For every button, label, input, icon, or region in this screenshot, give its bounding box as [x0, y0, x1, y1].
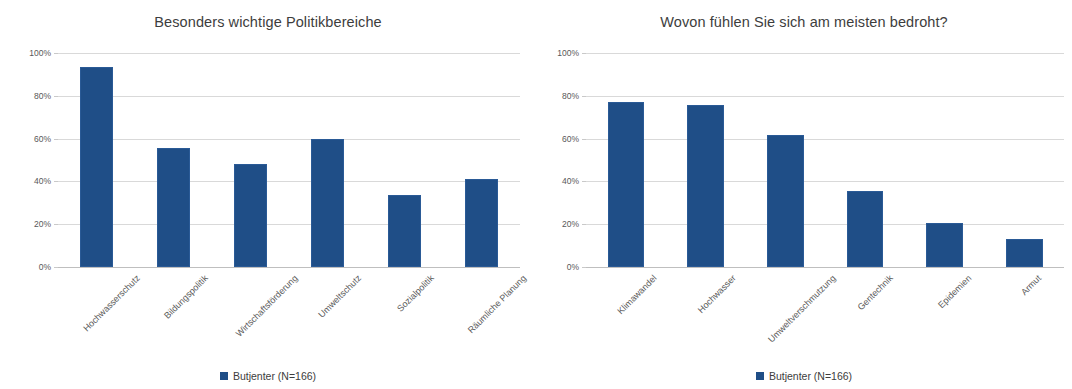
y-axis-tick-label: 0% — [39, 262, 51, 272]
bar[interactable] — [1006, 239, 1043, 267]
x-label-slot: Hochwasserschutz — [58, 267, 135, 353]
y-axis-tick-label: 40% — [562, 176, 579, 186]
x-axis-tick-label: Klimawandel — [615, 273, 658, 316]
bar-slot — [984, 53, 1064, 267]
x-label-slot: Sozialpolitik — [366, 267, 443, 353]
chart-title: Wovon fühlen Sie sich am meisten bedroht… — [536, 14, 1072, 30]
x-axis-labels-right: KlimawandelHochwasserUmweltverschmutzung… — [586, 267, 1064, 353]
x-axis-tick-label: Hochwasser — [695, 273, 737, 315]
y-axis-tick-label: 40% — [34, 176, 51, 186]
bar[interactable] — [767, 135, 804, 267]
bar-slot — [825, 53, 905, 267]
y-axis-tick-label: 20% — [562, 219, 579, 229]
legend-label: Butjenter (N=166) — [233, 370, 316, 382]
y-axis-tick-label: 60% — [34, 134, 51, 144]
bar[interactable] — [687, 105, 724, 267]
x-label-slot: Wirtschaftsförderung — [212, 267, 289, 353]
y-axis-tick-label: 100% — [557, 48, 579, 58]
chart-title: Besonders wichtige Politikbereiche — [0, 14, 536, 30]
y-axis-tick-label: 60% — [562, 134, 579, 144]
x-label-slot: Umweltverschmutzung — [745, 267, 825, 353]
x-axis-labels-left: HochwasserschutzBildungspolitikWirtschaf… — [58, 267, 520, 353]
plot-area-left: 0%20%40%60%80%100% — [58, 53, 520, 267]
bar[interactable] — [388, 195, 422, 267]
bar-slot — [443, 53, 520, 267]
x-axis-tick-label: Umweltschutz — [316, 273, 363, 320]
bar[interactable] — [847, 191, 884, 267]
bar-slot — [905, 53, 985, 267]
bar-slot — [366, 53, 443, 267]
x-axis-tick-label: Gentechnik — [855, 273, 894, 312]
x-axis-tick-label: Bildungspolitik — [162, 273, 210, 321]
bar[interactable] — [465, 179, 499, 267]
chart-panel-bedrohung: Wovon fühlen Sie sich am meisten bedroht… — [536, 0, 1072, 389]
bar[interactable] — [157, 148, 191, 267]
legend-swatch-icon — [220, 372, 228, 380]
x-label-slot: Hochwasser — [666, 267, 746, 353]
bar-slot — [212, 53, 289, 267]
y-axis-tick-label: 20% — [34, 219, 51, 229]
x-label-slot: Armut — [984, 267, 1064, 353]
x-label-slot: Räumliche Planung — [443, 267, 520, 353]
legend-right: Butjenter (N=166) — [536, 370, 1072, 382]
bar-slot — [289, 53, 366, 267]
bar[interactable] — [234, 164, 268, 267]
two-chart-figure: Besonders wichtige Politikbereiche 0%20%… — [0, 0, 1072, 389]
bar[interactable] — [608, 102, 645, 267]
bar-slot — [586, 53, 666, 267]
bar[interactable] — [80, 67, 114, 267]
x-axis-tick-label: Epidemien — [936, 273, 973, 310]
x-axis-tick-label: Sozialpolitik — [395, 273, 436, 314]
bar-slot — [135, 53, 212, 267]
legend-label: Butjenter (N=166) — [769, 370, 852, 382]
bar[interactable] — [311, 139, 345, 267]
x-axis-tick-label: Armut — [1019, 273, 1043, 297]
bar-slot — [745, 53, 825, 267]
y-axis-tick-label: 100% — [29, 48, 51, 58]
y-axis-tick-label: 80% — [34, 91, 51, 101]
bar-slot — [58, 53, 135, 267]
bar[interactable] — [926, 223, 963, 267]
bars-left — [58, 53, 520, 267]
legend-swatch-icon — [756, 372, 764, 380]
y-axis-tick-label: 80% — [562, 91, 579, 101]
legend-left: Butjenter (N=166) — [0, 370, 536, 382]
x-label-slot: Gentechnik — [825, 267, 905, 353]
x-axis-tick-label: Räumliche Planung — [465, 273, 527, 335]
x-label-slot: Klimawandel — [586, 267, 666, 353]
x-label-slot: Bildungspolitik — [135, 267, 212, 353]
chart-panel-politikbereiche: Besonders wichtige Politikbereiche 0%20%… — [0, 0, 536, 389]
x-axis-tick-label: Hochwasserschutz — [81, 273, 141, 333]
plot-area-right: 0%20%40%60%80%100% — [586, 53, 1064, 267]
x-label-slot: Epidemien — [905, 267, 985, 353]
x-label-slot: Umweltschutz — [289, 267, 366, 353]
bars-right — [586, 53, 1064, 267]
bar-slot — [666, 53, 746, 267]
y-axis-tick-label: 0% — [567, 262, 579, 272]
